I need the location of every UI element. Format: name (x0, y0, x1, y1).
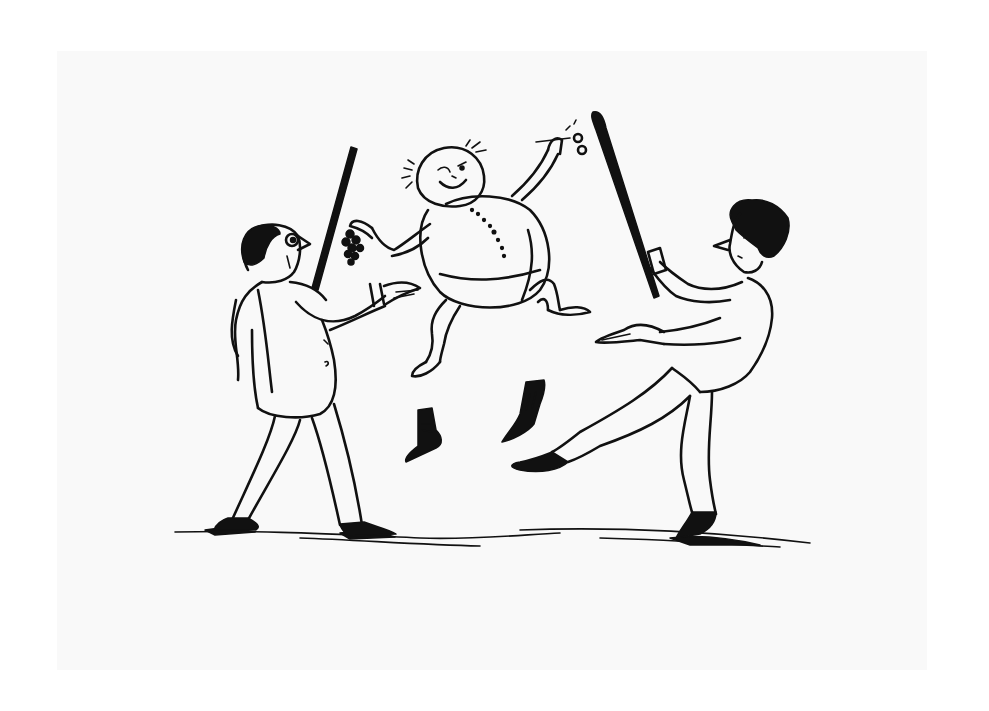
left-stick (312, 147, 357, 290)
illustration (0, 0, 989, 711)
ground-shadow (175, 528, 810, 547)
jumping-man (342, 120, 590, 376)
right-boot (502, 380, 545, 442)
left-boot (406, 408, 442, 462)
right-stick (592, 112, 659, 298)
right-man (512, 200, 789, 538)
grapes (342, 230, 364, 265)
